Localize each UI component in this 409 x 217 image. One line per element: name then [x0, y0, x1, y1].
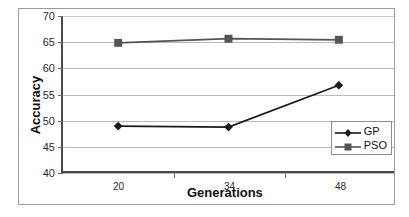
- diamond-marker: [334, 81, 343, 90]
- y-axis-tick-label: 50: [43, 115, 55, 127]
- y-axis-title: Accuracy: [28, 76, 43, 135]
- plot-area: 40455055606570 203448 GP: [61, 16, 394, 173]
- square-marker: [335, 36, 343, 44]
- gridline: [63, 173, 394, 174]
- series-pso: [114, 35, 343, 47]
- legend-label-gp: GP: [364, 125, 380, 137]
- diamond-marker: [224, 123, 233, 132]
- square-marker: [334, 139, 362, 151]
- y-axis-tick-label: 60: [43, 62, 55, 74]
- diamond-marker: [334, 125, 362, 137]
- legend-item-gp: GP: [334, 124, 387, 138]
- y-axis-tick-label: 45: [43, 141, 55, 153]
- y-axis-tick: [58, 173, 63, 174]
- x-axis-tick-label: 20: [113, 181, 124, 192]
- series-line: [118, 85, 339, 127]
- legend-item-pso: PSO: [334, 138, 387, 152]
- square-marker: [114, 39, 122, 47]
- chart-figure: Accuracy Generations 40455055606570 2034…: [18, 8, 395, 205]
- x-axis-tick-label: 34: [224, 181, 235, 192]
- y-axis-tick-label: 55: [43, 89, 55, 101]
- y-axis-tick-label: 70: [43, 10, 55, 22]
- y-axis-tick-label: 40: [43, 167, 55, 179]
- chart-legend: GP PSO: [331, 121, 392, 155]
- y-axis-tick-label: 65: [43, 36, 55, 48]
- square-marker: [225, 35, 233, 43]
- series-gp: [114, 81, 343, 132]
- x-axis-tick-label: 48: [335, 181, 346, 192]
- legend-label-pso: PSO: [364, 139, 387, 151]
- x-axis-tick: [285, 172, 286, 178]
- x-axis-tick: [174, 172, 175, 178]
- diamond-marker: [114, 122, 123, 131]
